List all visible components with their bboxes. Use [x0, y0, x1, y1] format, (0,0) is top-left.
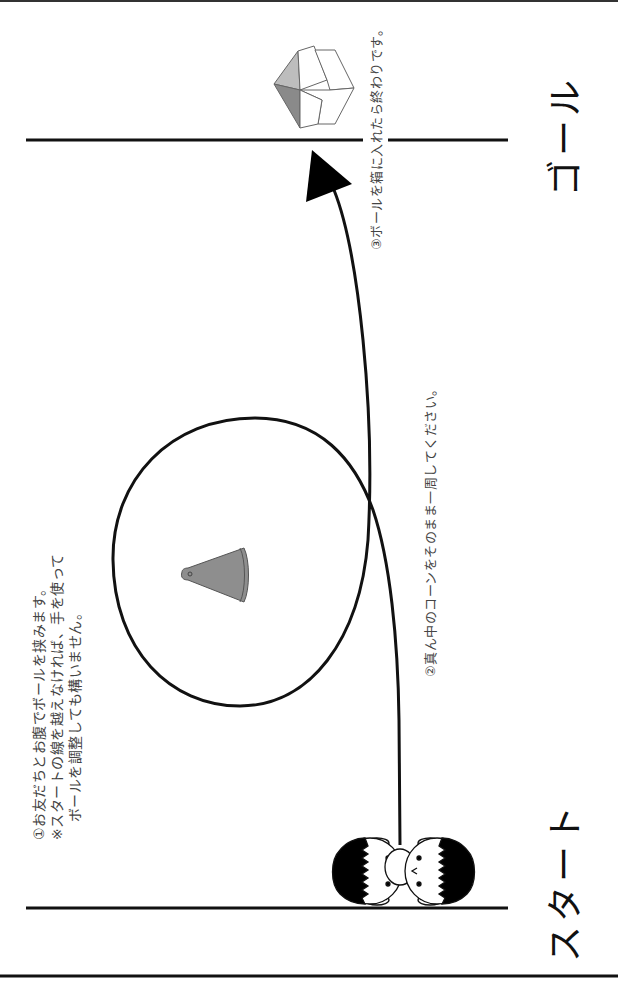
children-icon — [333, 838, 475, 905]
step1-line3: ボールを調整しても構いません。 — [66, 606, 84, 823]
box-icon — [274, 46, 354, 128]
diagram-graphics — [0, 0, 618, 988]
goal-label: ゴール — [536, 76, 588, 196]
course-path — [113, 190, 400, 845]
cone-icon — [181, 548, 248, 602]
start-label: スタート — [536, 802, 588, 962]
direction-arrow-icon — [306, 150, 352, 202]
obstacle-course-diagram: ゴール スタート ③ボールを箱に入れたら終わりです。 ②真ん中のコーンをそのまま… — [0, 0, 618, 988]
step3-text: ③ボールを箱に入れたら終わりです。 — [366, 23, 385, 250]
step1-line2: ※スタートの線を越えなければ、手を使って — [48, 553, 66, 840]
step1-line1: ①お友だちとお腹でボールを挟みます。 — [30, 581, 48, 840]
step2-text: ②真ん中のコーンをそのまま一周してください。 — [420, 382, 439, 677]
